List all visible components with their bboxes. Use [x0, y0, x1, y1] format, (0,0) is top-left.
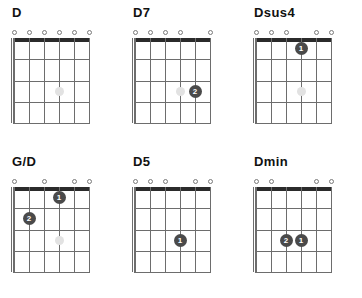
finger-marker: 1 [53, 191, 66, 204]
open-string-icon [57, 30, 62, 35]
fret-line [255, 81, 332, 82]
chord-diagram: D51 [121, 149, 228, 297]
open-string-icon [329, 30, 334, 35]
open-string-row [12, 29, 91, 38]
string-line [44, 38, 45, 123]
fret-line [255, 251, 332, 252]
fret-line [134, 123, 211, 124]
open-string-row [133, 29, 212, 38]
string-line [14, 38, 15, 123]
finger-marker: 1 [295, 234, 308, 247]
string-line [301, 187, 302, 272]
open-string-icon [133, 30, 138, 35]
fret-line [134, 272, 211, 273]
open-string-row [12, 178, 91, 187]
fretboard-edge [253, 38, 254, 123]
fret-line [134, 251, 211, 252]
open-string-icon [87, 30, 92, 35]
string-line [286, 187, 287, 272]
fret-line [13, 59, 90, 60]
fretboard-grid: 1 [256, 38, 331, 123]
fretboard-edge [132, 38, 133, 123]
nut-bar [134, 187, 211, 191]
chord-name: Dmin [254, 154, 288, 170]
ghost-dot [55, 236, 64, 245]
fret-line [13, 230, 90, 231]
fretboard-edge [132, 187, 133, 272]
chord-name: G/D [12, 154, 36, 170]
chord-diagram: Dmin12 [242, 149, 349, 297]
fretboard-edge [13, 187, 14, 272]
string-line [195, 38, 196, 123]
fret-line [134, 81, 211, 82]
fret-line [13, 102, 90, 103]
string-line [44, 187, 45, 272]
fret-line [134, 230, 211, 231]
string-line [256, 38, 257, 123]
string-line [331, 38, 332, 123]
nut-bar [255, 187, 332, 191]
ghost-dot [176, 87, 185, 96]
open-string-icon [254, 30, 259, 35]
string-line [256, 187, 257, 272]
open-string-row [254, 178, 333, 187]
string-line [89, 187, 90, 272]
fret-line [13, 272, 90, 273]
string-line [331, 187, 332, 272]
fret-line [255, 102, 332, 103]
open-string-icon [314, 179, 319, 184]
string-line [271, 38, 272, 123]
fret-line [255, 272, 332, 273]
string-line [150, 38, 151, 123]
open-string-icon [87, 179, 92, 184]
open-string-row [133, 178, 212, 187]
open-string-icon [133, 179, 138, 184]
open-string-icon [148, 179, 153, 184]
fretboard-grid [14, 38, 89, 123]
string-line [316, 38, 317, 123]
fretboard-grid: 1 [135, 187, 210, 272]
open-string-icon [193, 179, 198, 184]
fret-line [134, 208, 211, 209]
open-string-icon [178, 30, 183, 35]
open-string-row [254, 29, 333, 38]
string-line [286, 38, 287, 123]
open-string-icon [269, 30, 274, 35]
string-line [135, 38, 136, 123]
fretboard-edge [253, 187, 254, 272]
open-string-icon [284, 30, 289, 35]
nut-bar [13, 38, 90, 42]
open-string-icon [314, 30, 319, 35]
string-line [29, 187, 30, 272]
open-string-icon [163, 30, 168, 35]
string-line [195, 187, 196, 272]
chord-name: Dsus4 [254, 5, 295, 21]
string-line [180, 38, 181, 123]
ghost-dot [55, 87, 64, 96]
string-line [74, 38, 75, 123]
open-string-icon [72, 179, 77, 184]
fret-line [13, 208, 90, 209]
fret-line [134, 102, 211, 103]
string-line [165, 187, 166, 272]
string-line [74, 187, 75, 272]
open-string-icon [208, 179, 213, 184]
chord-chart: DD72Dsus41G/D12D51Dmin12 [0, 0, 362, 298]
finger-marker: 1 [295, 42, 308, 55]
open-string-icon [148, 30, 153, 35]
fretboard-grid: 2 [135, 38, 210, 123]
open-string-icon [27, 30, 32, 35]
string-line [210, 187, 211, 272]
open-string-icon [269, 179, 274, 184]
open-string-icon [163, 179, 168, 184]
chord-name: D7 [133, 5, 150, 21]
open-string-icon [72, 30, 77, 35]
fret-line [255, 230, 332, 231]
open-string-icon [42, 30, 47, 35]
nut-bar [134, 38, 211, 42]
string-line [29, 38, 30, 123]
chord-name: D5 [133, 154, 150, 170]
string-line [59, 38, 60, 123]
finger-marker: 2 [189, 85, 202, 98]
fretboard-grid: 12 [14, 187, 89, 272]
